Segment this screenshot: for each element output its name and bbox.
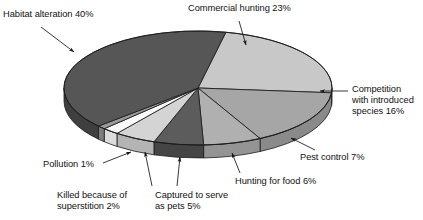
label-captured-as-pets: Captured to serveas pets 5% xyxy=(155,190,228,212)
label-habitat-alteration: Habitat alteration 40% xyxy=(3,9,93,20)
label-pollution: Pollution 1% xyxy=(43,159,94,170)
leader-line-pest xyxy=(291,138,315,150)
label-competition-introduced-species: Competitionwith introducedspecies 16% xyxy=(352,84,414,118)
pie-slices-group xyxy=(64,31,332,158)
label-hunting-for-food: Hunting for food 6% xyxy=(235,176,316,187)
label-superstition-line-2: superstition 2% xyxy=(57,201,120,211)
label-pets-line-1: Captured to serve xyxy=(155,190,228,200)
label-pets-line-2: as pets 5% xyxy=(155,201,201,211)
label-pest-control: Pest control 7% xyxy=(300,152,364,163)
label-competition-line-1: Competition xyxy=(352,84,401,94)
label-competition-line-3: species 16% xyxy=(352,106,404,116)
leader-line-pets xyxy=(177,157,180,186)
pie-chart-figure: Habitat alteration 40% Commercial huntin… xyxy=(0,0,423,220)
label-commercial-hunting: Commercial hunting 23% xyxy=(188,3,291,14)
leader-line-habitat xyxy=(41,27,74,52)
label-competition-line-2: with introduced xyxy=(352,95,414,105)
leader-line-pollution xyxy=(103,152,131,163)
label-superstition-line-1: Killed because of xyxy=(57,190,127,200)
label-killed-superstition: Killed because ofsuperstition 2% xyxy=(57,190,127,212)
leader-line-superstition xyxy=(145,152,152,186)
